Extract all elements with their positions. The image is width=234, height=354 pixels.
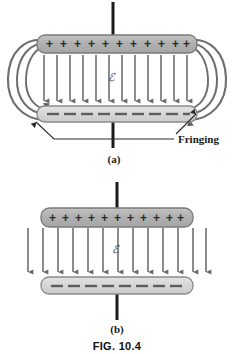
charge-symbol: + — [172, 37, 179, 51]
charge-symbol: + — [183, 37, 190, 51]
charge-symbol: + — [127, 211, 134, 225]
capacitor-fringing-figure: + + + + + + + + + + + — [0, 0, 234, 354]
charge-symbol: + — [116, 37, 123, 51]
charge-symbol: + — [114, 211, 121, 225]
charge-symbol: + — [74, 37, 81, 51]
charge-symbol: + — [101, 211, 108, 225]
charge-symbol: + — [153, 211, 160, 225]
panel-label-a: (a) — [108, 153, 121, 166]
figure-caption: FIG. 10.4 — [93, 340, 142, 352]
top-plate-positive-a: + + + + + + + + + + + — [37, 35, 197, 53]
charge-symbol: + — [140, 211, 147, 225]
charge-symbol: + — [158, 37, 165, 51]
charge-symbol: + — [62, 211, 69, 225]
electric-field-symbol-b: ℰ — [112, 243, 120, 255]
panel-label-b: (b) — [110, 323, 124, 336]
charge-symbol: + — [60, 37, 67, 51]
fringing-label: Fringing — [178, 133, 219, 145]
charge-symbol: + — [49, 211, 56, 225]
figure-container: + + + + + + + + + + + — [0, 0, 234, 354]
charge-symbol: + — [75, 211, 82, 225]
charge-symbol: + — [144, 37, 151, 51]
charge-symbol: + — [177, 211, 184, 225]
bottom-plate-negative-a — [37, 106, 197, 122]
charge-symbol: + — [46, 37, 53, 51]
bottom-plate-negative-b — [41, 277, 193, 294]
top-plate-positive-b: + + + + + + + + + + + — [41, 208, 193, 227]
electric-field-symbol-a: ℰ — [108, 71, 116, 83]
charge-symbol: + — [102, 37, 109, 51]
charge-symbol: + — [88, 211, 95, 225]
charge-symbol: + — [88, 37, 95, 51]
charge-symbol: + — [130, 37, 137, 51]
charge-symbol: + — [166, 211, 173, 225]
